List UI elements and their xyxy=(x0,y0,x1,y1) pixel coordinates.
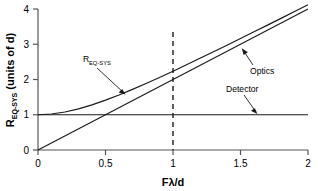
annotation-optics-arrowhead xyxy=(242,48,248,55)
annotation-reqsys-subscript: EQ-SYS xyxy=(89,60,111,66)
y-axis-title-subscript: EQ-SYS xyxy=(11,92,19,119)
annotation-detector-arrowhead xyxy=(251,108,258,114)
chart-figure: 0 1 2 3 4 0 0.5 1 1.5 2 R EQ-SYS xyxy=(0,0,318,191)
x-tick-label-2: 2 xyxy=(305,158,311,169)
annotation-reqsys: R EQ-SYS xyxy=(83,54,126,95)
x-tick-labels: 0 0.5 1 1.5 2 xyxy=(35,158,311,169)
annotation-optics-label: Optics xyxy=(250,66,274,76)
annotation-detector-label: Detector xyxy=(226,84,259,94)
x-tick-marks xyxy=(38,150,308,155)
annotation-detector: Detector xyxy=(226,84,259,114)
y-tick-label-4: 4 xyxy=(23,4,29,15)
y-tick-label-3: 3 xyxy=(23,39,29,50)
x-tick-label-1: 1 xyxy=(170,158,176,169)
y-axis-title-main: R xyxy=(4,119,16,127)
x-axis-title: Fλ/d xyxy=(162,176,185,188)
y-axis-title-group: REQ-SYS (units of d) xyxy=(4,33,19,128)
y-tick-label-1: 1 xyxy=(23,109,29,120)
y-axis-title-tail: (units of d) xyxy=(4,33,16,93)
x-tick-label-0: 0 xyxy=(35,158,41,169)
y-tick-label-0: 0 xyxy=(23,145,29,156)
x-tick-label-1p5: 1.5 xyxy=(234,158,248,169)
y-tick-marks xyxy=(33,9,38,150)
annotation-reqsys-arrow xyxy=(97,68,124,93)
y-axis-title: REQ-SYS (units of d) xyxy=(4,33,19,128)
annotation-optics: Optics xyxy=(242,48,275,76)
y-tick-labels: 0 1 2 3 4 xyxy=(23,4,29,156)
chart-canvas: 0 1 2 3 4 0 0.5 1 1.5 2 R EQ-SYS xyxy=(0,0,318,191)
y-tick-label-2: 2 xyxy=(23,74,29,85)
x-tick-label-0p5: 0.5 xyxy=(99,158,113,169)
